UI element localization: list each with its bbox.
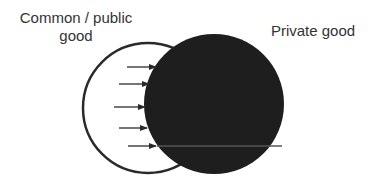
venn-diagram: [0, 0, 370, 185]
private-good-circle: [144, 34, 284, 174]
